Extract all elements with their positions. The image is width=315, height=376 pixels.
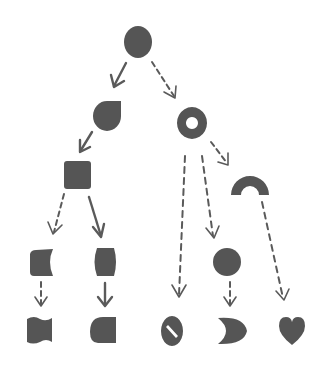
ring-shape (177, 107, 207, 139)
edge-ring-to-slashed-ellipse (172, 156, 186, 297)
diagram-canvas (0, 0, 315, 376)
edge-ring-to-arch (211, 142, 228, 165)
edge-barrel-to-dshape (98, 283, 112, 306)
slashed-ellipse-shape (161, 316, 183, 346)
edge-circle-to-ring (152, 62, 176, 98)
d-shape (90, 317, 116, 343)
edge-square-to-concave (48, 194, 64, 234)
edge-ring-to-pie (202, 156, 219, 238)
arch-shape (231, 176, 269, 195)
edge-concave-to-wavy (35, 282, 47, 306)
edge-pie-to-crescent (224, 282, 236, 306)
heart-shape (279, 317, 305, 345)
edge-circle-to-teardrop (111, 63, 126, 87)
wavy-square-shape (27, 317, 52, 344)
rounded-square-shape (64, 161, 91, 189)
edge-arch-to-heart (262, 202, 289, 300)
edge-teardrop-to-square (80, 132, 92, 152)
teardrop-shape (93, 101, 121, 131)
crescent-shape (218, 318, 247, 344)
shape-tree-diagram (0, 0, 315, 376)
circle-shape (124, 26, 152, 58)
barrel-shape (95, 248, 117, 276)
pie-shape-upper-right (227, 248, 241, 262)
edge-square-to-barrel (89, 197, 104, 237)
concave-square-shape (30, 249, 53, 276)
